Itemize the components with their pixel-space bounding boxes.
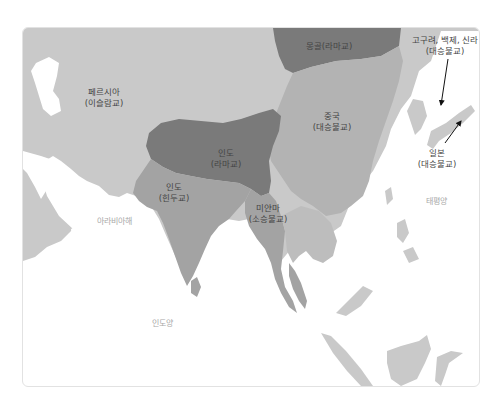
india-lama-religion: (라마교) xyxy=(211,159,242,170)
label-china: 중국 (대승불교) xyxy=(313,111,352,133)
label-myanmar: 미얀마 (소승불교) xyxy=(249,203,288,225)
china-name: 중국 xyxy=(313,111,352,122)
india-hindu-religion: (힌두교) xyxy=(159,193,190,204)
japan-name: 일본 xyxy=(418,148,457,159)
japan-religion: (대승불교) xyxy=(418,159,457,170)
label-indian-ocean: 인도양 xyxy=(152,318,173,329)
india-hindu-name: 인도 xyxy=(159,182,190,193)
arrow-japan xyxy=(445,121,461,143)
three-kingdoms-name: 고구려, 백제, 신라 xyxy=(412,35,479,46)
label-persia: 페르시아 (이슬람교) xyxy=(85,87,124,109)
persia-name: 페르시아 xyxy=(85,87,124,98)
arrow-korea xyxy=(441,59,448,105)
label-mongolia: 몽골(라마교) xyxy=(306,41,353,52)
india-lama-name: 인도 xyxy=(211,148,242,159)
myanmar-religion: (소승불교) xyxy=(249,214,288,225)
china-religion: (대승불교) xyxy=(313,122,352,133)
label-three-kingdoms: 고구려, 백제, 신라 (대승불교) xyxy=(412,35,479,57)
persia-religion: (이슬람교) xyxy=(85,98,124,109)
mongolia-name: 몽골(라마교) xyxy=(306,41,353,51)
label-pacific: 태평양 xyxy=(426,196,447,207)
myanmar-name: 미얀마 xyxy=(249,203,288,214)
label-india-lama: 인도 (라마교) xyxy=(211,148,242,170)
label-arabian-sea: 아라비아해 xyxy=(97,216,132,227)
label-japan: 일본 (대승불교) xyxy=(418,148,457,170)
label-india-hindu: 인도 (힌두교) xyxy=(159,182,190,204)
three-kingdoms-religion: (대승불교) xyxy=(412,46,479,57)
